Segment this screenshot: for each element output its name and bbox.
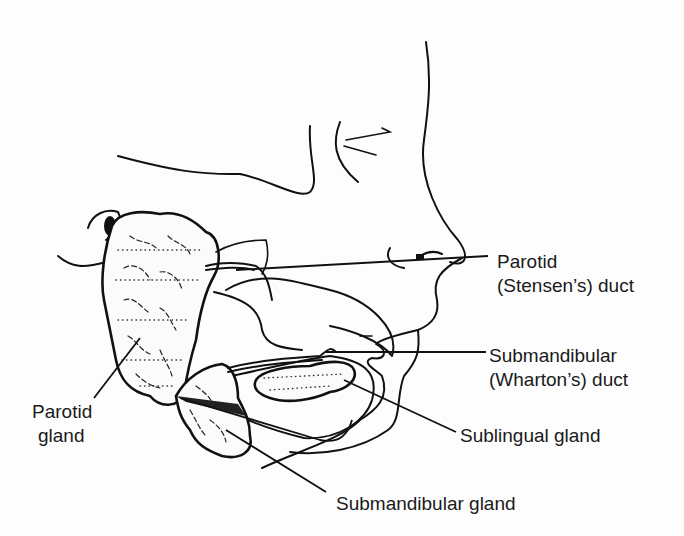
label-submandibular-gland: Submandibular gland — [336, 492, 516, 516]
label-submandibular-duct-line1: Submandibular — [489, 344, 628, 368]
nostril — [388, 248, 442, 268]
label-parotid-gland-line2: gland — [32, 424, 92, 448]
label-parotid-duct-line1: Parotid — [497, 250, 634, 274]
label-submandibular-duct: Submandibular (Wharton’s) duct — [489, 344, 628, 392]
tongue-contour — [214, 292, 302, 350]
label-parotid-gland: Parotid gland — [32, 400, 92, 448]
eye-contour — [118, 126, 314, 194]
neck-curve — [58, 256, 106, 266]
label-sublingual-gland: Sublingual gland — [460, 424, 601, 448]
cheek-contour — [226, 278, 393, 356]
eyelid-lines — [344, 128, 390, 155]
label-parotid-duct: Parotid (Stensen’s) duct — [497, 250, 634, 298]
label-submandibular-duct-line2: (Wharton’s) duct — [489, 368, 628, 392]
label-parotid-duct-line2: (Stensen’s) duct — [497, 274, 634, 298]
label-parotid-gland-line1: Parotid — [32, 400, 92, 424]
label-submandibular-gland-line1: Submandibular gland — [336, 492, 516, 516]
nose-profile — [423, 42, 465, 264]
label-sublingual-gland-line1: Sublingual gland — [460, 424, 601, 448]
eyelid-upper — [336, 122, 358, 182]
leader-submandibular-gland — [226, 430, 326, 492]
salivary-gland-diagram: Parotid (Stensen’s) duct Submandibular (… — [0, 0, 684, 536]
